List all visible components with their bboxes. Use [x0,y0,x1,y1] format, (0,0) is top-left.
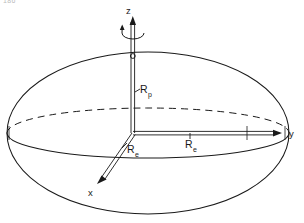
x-axis-label: x [88,187,93,198]
svg-text:R: R [185,138,193,150]
svg-text:R: R [140,83,148,95]
svg-text:e: e [135,151,139,158]
figure-container: 186 [0,0,304,223]
z-axis-label: z [126,5,131,16]
svg-text:R: R [127,143,135,155]
equatorial-radius-y-label: R e [185,138,197,153]
svg-text:p: p [148,91,152,99]
equator-axis-ticks [9,126,285,140]
arrow-right-icon [273,130,282,137]
oblate-spheroid-diagram: z y x R p R e R e [0,0,304,223]
svg-text:e: e [193,146,197,153]
z-axis [130,16,136,133]
equatorial-radius-x-label: R e [127,143,139,158]
rotation-arc-icon [120,25,144,40]
x-axis [97,133,135,184]
arrow-down-left-icon [97,176,107,184]
y-axis [133,130,282,137]
arrow-up-icon [130,16,136,25]
y-axis-label: y [289,128,294,139]
polar-radius-label: R p [140,83,152,99]
